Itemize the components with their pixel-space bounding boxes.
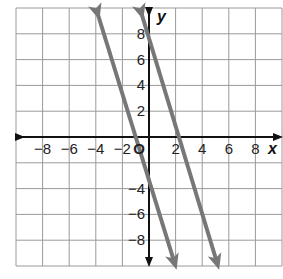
y-tick-label: −8: [128, 231, 145, 248]
axes: [20, 12, 278, 262]
y-tick-label: 6: [137, 51, 145, 68]
x-tick-label: 4: [198, 140, 206, 157]
y-tick-label: −4: [128, 180, 145, 197]
x-tick-label: 6: [225, 140, 233, 157]
x-tick-label: −4: [87, 140, 104, 157]
origin-label: O: [133, 140, 145, 157]
x-tick-label: 8: [251, 140, 259, 157]
y-tick-label: 2: [137, 102, 145, 119]
coordinate-plane: −8−6−4−224688642−4−6−8Oxy: [0, 0, 283, 279]
x-tick-label: −8: [34, 140, 51, 157]
x-axis-label: x: [267, 140, 278, 157]
x-tick-label: −2: [114, 140, 131, 157]
y-tick-label: 8: [137, 25, 145, 42]
tick-labels: −8−6−4−224688642−4−6−8Oxy: [34, 8, 278, 248]
y-tick-label: −6: [128, 205, 145, 222]
y-axis-label: y: [156, 8, 167, 25]
x-tick-label: −6: [61, 140, 78, 157]
x-tick-label: 2: [171, 140, 179, 157]
y-tick-label: 4: [137, 76, 145, 93]
